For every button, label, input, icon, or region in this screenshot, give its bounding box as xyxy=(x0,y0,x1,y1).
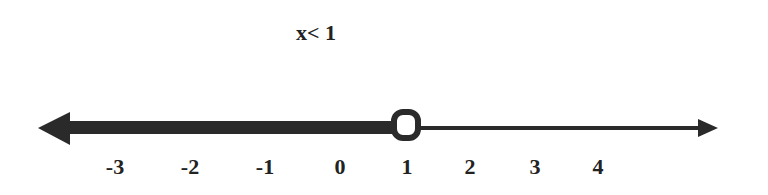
right-arrow-icon xyxy=(698,119,718,137)
tick-label: -2 xyxy=(181,154,199,180)
left-arrow-icon xyxy=(38,112,70,145)
tick-label: 1 xyxy=(402,154,413,180)
tick-label: -3 xyxy=(106,154,124,180)
tick-label: -1 xyxy=(256,154,274,180)
tick-label: 3 xyxy=(530,154,541,180)
shaded-ray xyxy=(65,121,398,134)
open-circle-icon xyxy=(394,112,418,138)
tick-label: 2 xyxy=(465,154,476,180)
tick-label: 4 xyxy=(593,154,604,180)
tick-label: 0 xyxy=(335,154,346,180)
